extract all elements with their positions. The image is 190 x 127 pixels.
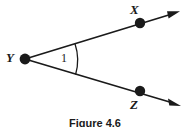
point-label-x: X: [130, 3, 139, 16]
vertex-dot-y: [20, 54, 31, 65]
point-label-z: Z: [130, 98, 138, 111]
figure-caption: Figure 4.6: [0, 118, 190, 127]
point-dot-z: [135, 86, 145, 96]
angle-diagram: [0, 0, 190, 127]
angle-number-label: 1: [61, 52, 67, 64]
ray-yz-line: [25, 59, 173, 103]
point-label-y: Y: [6, 51, 14, 64]
ray-yx-arrowhead: [167, 11, 180, 18]
ray-yz: [25, 59, 181, 106]
angle-arc: [75, 44, 78, 75]
figure-container: Y X Z 1 Figure 4.6: [0, 0, 190, 127]
ray-yx-line: [25, 14, 172, 59]
ray-yx: [25, 11, 180, 59]
ray-yz-arrowhead: [168, 99, 181, 106]
point-dot-x: [135, 18, 145, 28]
